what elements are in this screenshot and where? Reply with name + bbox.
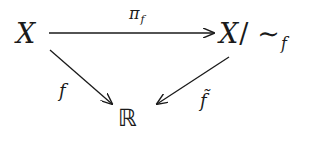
commutative-diagram: X X/∼f ℝ πf f f̃ (0, 0, 312, 157)
quotient-base: X (219, 18, 238, 49)
quotient-subscript: f (281, 34, 287, 53)
arrow-f-tilde (157, 57, 229, 104)
pi-symbol: π (129, 4, 140, 23)
node-codomain-reals: ℝ (118, 106, 137, 130)
quotient-slash: / (239, 18, 248, 49)
pi-subscript: f (141, 13, 145, 26)
label-pi-f: πf (129, 6, 145, 22)
equivalence-tilde: ∼ (257, 18, 280, 49)
label-f-tilde: f̃ (200, 92, 207, 110)
label-f: f (59, 82, 66, 100)
node-quotient-space: X/∼f (219, 20, 287, 47)
node-domain-x: X (16, 20, 35, 47)
